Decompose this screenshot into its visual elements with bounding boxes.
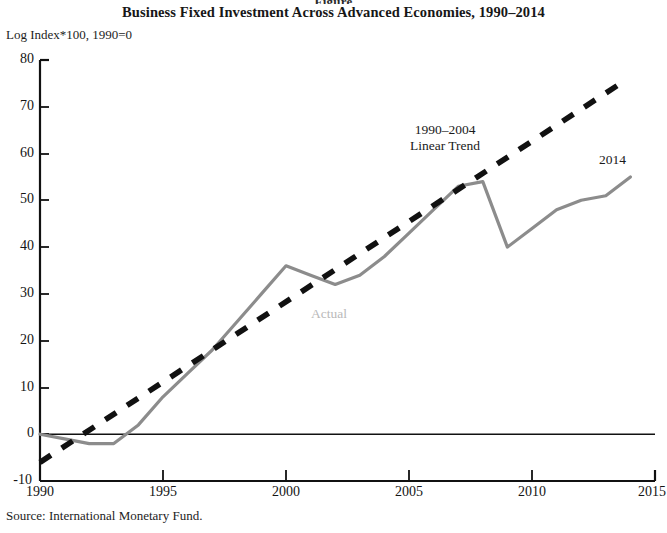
trend-annotation: 1990–2004 Linear Trend [380, 122, 510, 155]
chart-canvas [0, 0, 667, 533]
y-tick-label-30: 30 [0, 285, 34, 301]
plot-area: 80 70 60 50 40 30 20 10 0 -10 1990 1995 … [0, 0, 667, 533]
series-linear-trend-line [40, 83, 621, 462]
x-tick-label-1995: 1995 [133, 484, 193, 500]
actual-series-label: Actual [311, 306, 347, 322]
trend-annotation-line1: 1990–2004 [415, 122, 476, 137]
y-tick-label-50: 50 [0, 191, 34, 207]
endpoint-year-label: 2014 [599, 152, 626, 168]
y-tick-label-20: 20 [0, 332, 34, 348]
chart-figure: Figure Business Fixed Investment Across … [0, 0, 667, 533]
y-tick-label-40: 40 [0, 238, 34, 254]
x-axis-ticks [40, 470, 655, 481]
y-axis-ticks [40, 60, 49, 481]
y-tick-label-70: 70 [0, 98, 34, 114]
y-tick-label-60: 60 [0, 145, 34, 161]
y-tick-label-80: 80 [0, 51, 34, 67]
x-tick-label-2010: 2010 [502, 484, 562, 500]
y-tick-label-0: 0 [0, 425, 34, 441]
x-tick-label-2000: 2000 [256, 484, 316, 500]
x-tick-label-2005: 2005 [379, 484, 439, 500]
x-tick-label-2015: 2015 [622, 484, 667, 500]
source-note: Source: International Monetary Fund. [6, 508, 202, 524]
x-tick-label-1990: 1990 [10, 484, 70, 500]
y-tick-label-10: 10 [0, 379, 34, 395]
trend-annotation-line2: Linear Trend [410, 138, 480, 153]
